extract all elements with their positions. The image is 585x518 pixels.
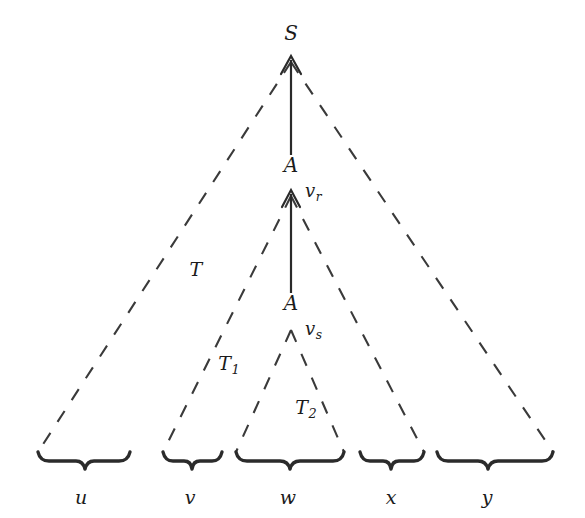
yield-label-w: w (280, 488, 296, 507)
triangle-T-right-edge (291, 62, 553, 452)
region-label-T2-base: T (295, 396, 308, 418)
node-label-inner-2: A (284, 293, 298, 313)
edge-label-vr-base: v (305, 180, 315, 201)
triangle-T2-right-edge (291, 330, 344, 452)
triangle-T1-left-edge (163, 196, 291, 452)
brace-w (236, 452, 344, 469)
triangle-T (38, 62, 553, 452)
parse-tree-figure: S A A vr vs T T1 T2 u v w x y (0, 0, 585, 518)
triangle-T1 (163, 196, 424, 452)
region-label-T-base: T (189, 258, 202, 280)
edge-label-vs-base: v (305, 318, 315, 339)
node-label-inner-1: A (284, 155, 298, 175)
region-label-T1: T1 (218, 354, 239, 377)
yield-label-v: v (185, 488, 196, 507)
arrow-A-to-S (281, 56, 301, 155)
yield-label-y: y (482, 488, 493, 507)
yield-label-x: x (386, 488, 397, 507)
brace-u (38, 452, 130, 469)
diagram-canvas (0, 0, 585, 518)
brace-group (38, 452, 553, 469)
edge-label-vr-subscript: r (316, 190, 322, 204)
brace-v (163, 452, 222, 469)
arrow-A-to-A (282, 190, 300, 293)
brace-x (360, 452, 424, 469)
region-label-T1-base: T (218, 352, 231, 374)
node-label-root: S (284, 23, 298, 43)
triangle-T2-left-edge (236, 330, 291, 452)
region-label-T: T (189, 260, 202, 283)
edge-label-vr: vr (305, 182, 322, 203)
brace-y (437, 452, 553, 469)
triangle-T2 (236, 330, 344, 452)
edge-label-vs-subscript: s (316, 328, 322, 342)
triangle-T-left-edge (38, 62, 291, 452)
yield-label-u: u (75, 488, 87, 507)
region-label-T2-subscript: 2 (308, 407, 316, 422)
edge-label-vs: vs (305, 320, 322, 341)
region-label-T2: T2 (295, 398, 316, 421)
region-label-T1-subscript: 1 (231, 363, 239, 378)
